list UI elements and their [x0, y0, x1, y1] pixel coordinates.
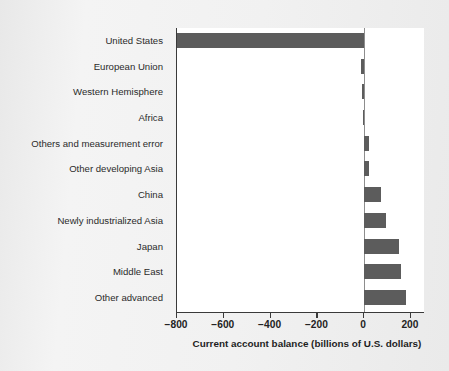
bar-row [177, 105, 424, 131]
category-label: Western Hemisphere [0, 79, 170, 105]
category-label: Africa [0, 105, 170, 131]
tick-label: −600 [211, 319, 234, 330]
tick-label: −200 [305, 319, 328, 330]
category-label: European Union [0, 54, 170, 80]
bar-row [177, 131, 424, 157]
bar [361, 59, 364, 74]
bar-row [177, 54, 424, 80]
tick-mark [316, 313, 317, 318]
bar [364, 264, 401, 279]
category-axis-labels: United States European Union Western Hem… [0, 28, 170, 311]
category-label: Middle East [0, 259, 170, 285]
bar [363, 110, 364, 125]
bar-row [177, 259, 424, 285]
bar-row [177, 234, 424, 260]
bar [362, 84, 364, 99]
category-label: Others and measurement error [0, 131, 170, 157]
category-label: Other advanced [0, 285, 170, 311]
tick-label: 200 [401, 319, 418, 330]
bar-row [177, 208, 424, 234]
figure-container: United States European Union Western Hem… [0, 0, 449, 371]
category-label: China [0, 182, 170, 208]
bar-row [177, 182, 424, 208]
bar [364, 161, 369, 176]
category-label: United States [0, 28, 170, 54]
tick-mark [410, 313, 411, 318]
bar [364, 213, 386, 228]
bar [364, 239, 399, 254]
bar-row [177, 285, 424, 311]
x-axis-title: Current account balance (billions of U.S… [176, 338, 438, 349]
tick-mark [223, 313, 224, 318]
category-label: Japan [0, 234, 170, 260]
bar-row [177, 79, 424, 105]
tick-mark [363, 313, 364, 318]
tick-label: 0 [360, 319, 366, 330]
bar [177, 33, 364, 48]
tick-label: −800 [165, 319, 188, 330]
bar [364, 187, 380, 202]
bar [364, 290, 406, 305]
plot-area [176, 28, 424, 313]
bars-layer [177, 28, 424, 311]
tick-mark [270, 313, 271, 318]
bar-row [177, 28, 424, 54]
tick-label: −400 [258, 319, 281, 330]
bar [364, 136, 369, 151]
category-label: Newly industrialized Asia [0, 208, 170, 234]
category-label: Other developing Asia [0, 156, 170, 182]
bar-row [177, 156, 424, 182]
tick-mark [176, 313, 177, 318]
